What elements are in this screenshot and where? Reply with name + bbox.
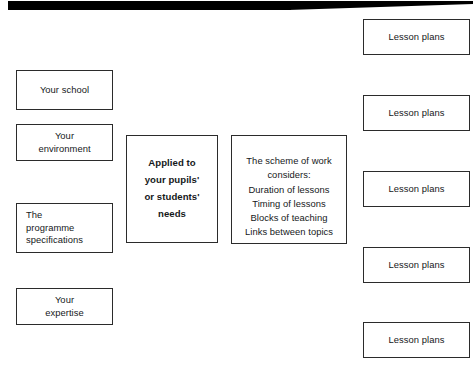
center-box-scheme-of-work-label: The scheme of work considers: Duration o… [245, 154, 333, 240]
input-box-your-school-label: Your school [40, 84, 89, 96]
input-box-your-expertise-label: Your expertise [45, 294, 84, 319]
input-box-your-school[interactable]: Your school [16, 70, 113, 110]
center-box-scheme-of-work[interactable]: The scheme of work considers: Duration o… [231, 135, 347, 244]
diagram-canvas: Your school Your environment The program… [0, 0, 475, 373]
output-box-lesson-plans-3[interactable]: Lesson plans [363, 171, 470, 207]
center-box-applied-to-needs-label: Applied to your pupils' or students' nee… [144, 155, 199, 222]
input-box-your-expertise[interactable]: Your expertise [16, 288, 113, 325]
scan-artifact-bar [8, 1, 291, 10]
output-box-lesson-plans-3-label: Lesson plans [389, 183, 445, 195]
output-box-lesson-plans-5[interactable]: Lesson plans [363, 322, 470, 358]
output-box-lesson-plans-2-label: Lesson plans [389, 107, 445, 119]
output-box-lesson-plans-2[interactable]: Lesson plans [363, 95, 470, 131]
output-box-lesson-plans-5-label: Lesson plans [389, 334, 445, 346]
input-box-your-environment[interactable]: Your environment [16, 124, 113, 161]
input-box-your-environment-label: Your environment [38, 130, 90, 155]
output-box-lesson-plans-1[interactable]: Lesson plans [363, 19, 470, 55]
output-box-lesson-plans-4-label: Lesson plans [389, 259, 445, 271]
center-box-applied-to-needs[interactable]: Applied to your pupils' or students' nee… [126, 135, 218, 243]
input-box-programme-specifications-label: The programme specifications [26, 209, 83, 246]
output-box-lesson-plans-4[interactable]: Lesson plans [363, 247, 470, 283]
scan-artifact-wedge [288, 1, 473, 10]
output-box-lesson-plans-1-label: Lesson plans [389, 31, 445, 43]
input-box-programme-specifications[interactable]: The programme specifications [16, 203, 113, 253]
